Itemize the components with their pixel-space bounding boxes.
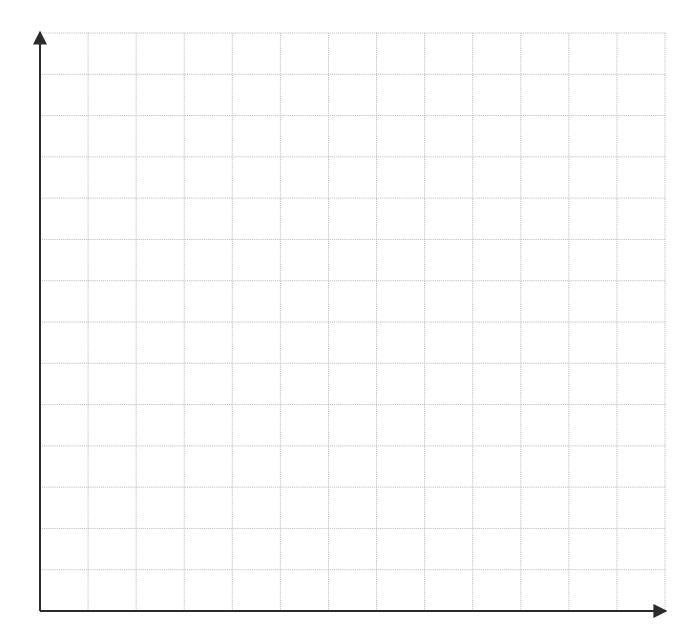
figure-canvas bbox=[0, 0, 691, 640]
coordinate-grid-plot bbox=[0, 0, 691, 640]
plot-background bbox=[0, 0, 691, 640]
